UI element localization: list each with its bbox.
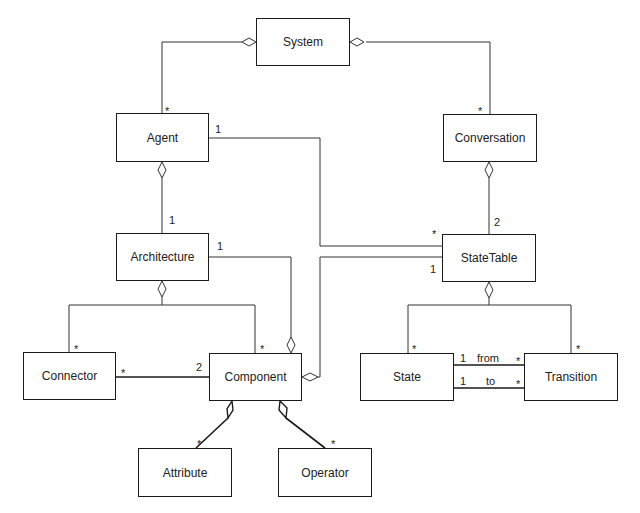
mult-to-transition: * [516,379,520,390]
mult-statetable-component: 1 [430,264,436,275]
role-to: to [486,376,495,387]
diamond-component-right-icon [302,373,318,381]
class-connector-label: Connector [42,369,97,383]
diamond-conversation-icon [485,162,493,178]
line-statetable-parts [408,305,571,353]
class-architecture: Architecture [116,233,209,281]
diamond-component-attribute-icon [227,401,233,418]
class-agent: Agent [116,113,209,162]
class-system-label: System [283,35,323,49]
class-conversation: Conversation [443,114,537,162]
mult-statetable-state: * [412,344,416,355]
class-component-label: Component [224,370,286,384]
mult-system-conversation: * [478,106,482,117]
class-statetable-label: StateTable [461,251,518,265]
class-architecture-label: Architecture [130,250,194,264]
line-architecture-component [209,257,291,337]
mult-statetable-transition: * [576,344,580,355]
class-component: Component [209,353,302,401]
class-transition-label: Transition [545,370,597,384]
mult-architecture-connector: * [74,344,78,355]
mult-from-transition: * [516,356,520,367]
mult-component-operator: * [331,439,335,450]
line-component-operator [286,418,325,448]
mult-connector-side: * [121,368,125,379]
mult-to-state: 1 [460,376,466,387]
mult-agent-statetable-agent: 1 [215,124,221,135]
class-operator: Operator [278,448,372,497]
class-state-label: State [393,370,421,384]
diamond-system-left-icon [242,38,256,46]
class-agent-label: Agent [147,131,178,145]
mult-architecture-component: 1 [217,241,223,252]
mult-conversation-statetable: 2 [494,217,500,228]
line-system-conversation [366,42,490,114]
diamond-statetable-icon [485,282,493,298]
line-agent-statetable [209,138,442,246]
class-attribute-label: Attribute [163,466,208,480]
diamond-component-operator-icon [279,401,287,418]
uml-class-diagram: System Agent Conversation Architecture S… [0,0,640,513]
line-architecture-parts [69,305,255,353]
mult-component-attribute: * [197,439,201,450]
mult-component-side: 2 [196,362,202,373]
diamond-architecture-icon [158,281,166,297]
line-system-agent [162,42,242,113]
mult-agent-architecture: 1 [169,215,175,226]
mult-system-agent: * [165,106,169,117]
class-system: System [256,18,350,66]
class-statetable: StateTable [442,234,536,282]
diamond-system-right-icon [350,38,364,46]
mult-architecture-component-part: * [260,344,264,355]
class-state: State [360,353,454,401]
diamond-agent-icon [158,162,166,178]
class-connector: Connector [23,352,116,400]
mult-from-state: 1 [460,353,466,364]
class-conversation-label: Conversation [455,131,526,145]
diamond-component-top-icon [287,337,295,353]
class-operator-label: Operator [301,466,348,480]
role-from: from [477,353,499,364]
association-lines [0,0,640,513]
class-transition: Transition [524,353,618,401]
class-attribute: Attribute [138,448,232,497]
mult-agent-statetable-table: * [432,229,436,240]
